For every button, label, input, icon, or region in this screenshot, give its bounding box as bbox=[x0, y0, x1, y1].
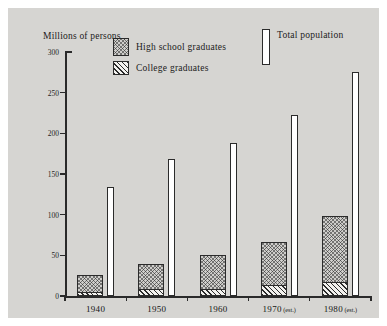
bar-total-population bbox=[230, 143, 237, 296]
x-axis-line bbox=[65, 296, 371, 298]
x-tick-label: 1950 bbox=[147, 304, 166, 314]
y-tick bbox=[60, 173, 66, 174]
x-tick bbox=[248, 296, 249, 301]
y-tick-label: 0 bbox=[19, 292, 59, 301]
bar-total-population bbox=[168, 159, 175, 296]
y-axis-label: Millions of persons bbox=[43, 31, 121, 41]
cross-hatch-swatch-icon bbox=[113, 38, 129, 56]
x-tick bbox=[370, 296, 371, 301]
bar-total-population bbox=[107, 187, 114, 296]
x-tick bbox=[126, 296, 127, 301]
x-tick-label: 1960 bbox=[208, 304, 227, 314]
legend-label-college-graduates: College graduates bbox=[136, 63, 209, 73]
legend-label-high-school-graduates: High school graduates bbox=[136, 42, 226, 52]
x-tick-label: 1980 (est.) bbox=[324, 304, 357, 314]
bar-college-graduates bbox=[138, 289, 164, 296]
legend-item-total-population[interactable]: Total population bbox=[262, 29, 343, 65]
x-tick bbox=[187, 296, 188, 301]
x-tick bbox=[309, 296, 310, 301]
plot-area: 050100150200250300 1940195019601970 (est… bbox=[65, 52, 371, 296]
x-tick-label: 1970 (est.) bbox=[263, 304, 296, 314]
bar-total-population bbox=[291, 115, 298, 296]
legend-item-college-graduates[interactable]: College graduates bbox=[113, 61, 209, 75]
y-tick-label: 200 bbox=[19, 129, 59, 138]
bar-college-graduates bbox=[200, 289, 226, 296]
y-tick bbox=[60, 214, 66, 215]
y-tick bbox=[60, 92, 66, 93]
y-tick bbox=[60, 255, 66, 256]
y-tick-label: 100 bbox=[19, 210, 59, 219]
bar-college-graduates bbox=[77, 292, 103, 296]
y-tick-label: 150 bbox=[19, 170, 59, 179]
y-tick bbox=[60, 133, 66, 134]
y-tick bbox=[65, 51, 72, 53]
bar-college-graduates bbox=[322, 282, 348, 296]
chart-plate: Millions of persons 050100150200250300 1… bbox=[8, 8, 379, 318]
legend-label-total-population: Total population bbox=[277, 30, 343, 40]
bar-college-graduates bbox=[261, 285, 287, 296]
legend-item-high-school-graduates[interactable]: High school graduates bbox=[113, 38, 226, 56]
diagonal-hatch-swatch-icon bbox=[113, 61, 129, 75]
x-tick bbox=[64, 296, 65, 301]
y-tick-label: 50 bbox=[19, 251, 59, 260]
y-tick-label: 300 bbox=[19, 48, 59, 57]
open-outline-swatch-icon bbox=[262, 29, 270, 65]
y-tick-label: 250 bbox=[19, 88, 59, 97]
chart-figure: Millions of persons 050100150200250300 1… bbox=[0, 0, 387, 326]
bar-total-population bbox=[352, 72, 359, 296]
x-tick-label: 1940 bbox=[86, 304, 105, 314]
